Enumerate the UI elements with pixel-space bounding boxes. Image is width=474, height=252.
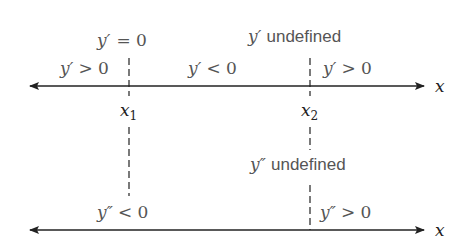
top-interval-2-sign: y′< 0 [187, 58, 237, 78]
x2-annotation: y′undefined [247, 26, 341, 46]
x2-label: x2 [301, 100, 318, 123]
top-axis-variable-label: x [435, 76, 445, 96]
bottom-interval-1-sign: y″< 0 [96, 202, 148, 222]
x2-second-derivative-annotation: y″undefined [249, 154, 346, 174]
top-interval-1-sign: y′> 0 [59, 58, 109, 78]
bottom-axis: x [30, 220, 445, 240]
x1-label: x1 [120, 100, 137, 123]
bottom-axis-variable-label: x [435, 220, 445, 240]
top-interval-3-sign: y′> 0 [322, 58, 372, 78]
sign-chart-diagram: x x x1 x2 y′= 0 y′undefined y′> 0 y′< 0 … [0, 0, 474, 252]
bottom-interval-2-sign: y″> 0 [319, 202, 371, 222]
x1-annotation: y′= 0 [96, 30, 147, 50]
top-axis: x [30, 76, 445, 96]
